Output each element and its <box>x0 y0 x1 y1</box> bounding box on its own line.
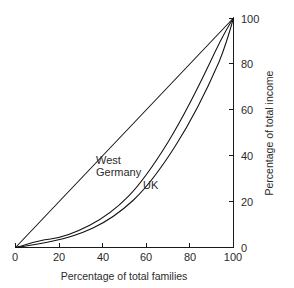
y-axis-tick-labels: 0 20 40 60 80 100 <box>241 13 259 254</box>
y-tick-label-0: 0 <box>241 242 247 254</box>
x-tick-label-80: 80 <box>184 251 196 263</box>
y-axis-ticks <box>229 18 234 248</box>
y-tick-label-80: 80 <box>241 58 253 70</box>
y-tick-label-60: 60 <box>241 104 253 116</box>
y-tick-label-40: 40 <box>241 150 253 162</box>
x-tick-label-20: 20 <box>53 251 65 263</box>
x-tick-label-60: 60 <box>140 251 152 263</box>
y-tick-label-20: 20 <box>241 196 253 208</box>
west-germany-label-line2: Germany <box>96 166 142 178</box>
x-tick-label-0: 0 <box>12 251 18 263</box>
chart-canvas: 0 20 40 60 80 100 0 20 40 60 80 100 West… <box>0 0 294 288</box>
lorenz-curve-chart: 0 20 40 60 80 100 0 20 40 60 80 100 West… <box>0 0 294 288</box>
series-annotations: West Germany UK <box>96 154 159 191</box>
line-of-equality-series <box>16 18 234 248</box>
x-axis-tick-labels: 0 20 40 60 80 100 <box>12 251 242 263</box>
x-axis-title: Percentage of total families <box>61 270 188 282</box>
west-germany-label-line1: West <box>96 154 121 166</box>
x-tick-label-100: 100 <box>224 251 242 263</box>
x-tick-label-40: 40 <box>97 251 109 263</box>
y-tick-label-100: 100 <box>241 13 259 25</box>
uk-label: UK <box>143 179 159 191</box>
y-axis-title: Percentage of total income <box>263 70 275 195</box>
x-axis-ticks <box>16 243 234 248</box>
